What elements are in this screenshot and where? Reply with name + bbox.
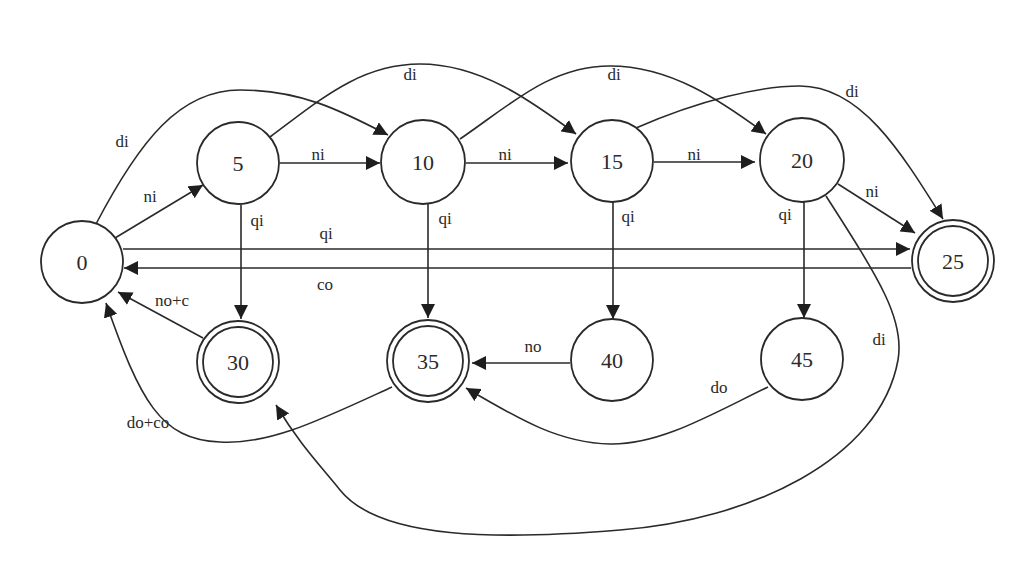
node-label-0: 0 [77, 250, 88, 275]
edge-label-45-35: do [711, 378, 728, 397]
state-diagram: 0 5 10 15 20 25 30 35 40 45 ni di qi [0, 0, 1028, 561]
edge-label-25-0: co [317, 275, 333, 294]
edge-label-5-10: ni [311, 145, 325, 164]
node-label-40: 40 [601, 348, 623, 373]
node-label-10: 10 [412, 150, 434, 175]
edge-label-20-45: qi [778, 205, 792, 224]
node-30-accepting: 30 [197, 321, 279, 403]
node-label-45: 45 [791, 347, 813, 372]
edge-label-10-15: ni [498, 145, 512, 164]
edge-label-40-35: no [525, 337, 542, 356]
node-45: 45 [761, 318, 843, 400]
edge-label-5-15: di [403, 65, 417, 84]
edge-label-0-25: qi [319, 224, 333, 243]
node-25-accepting: 25 [912, 220, 994, 302]
node-20: 20 [760, 118, 844, 202]
edge-label-10-20: di [607, 65, 621, 84]
edge-label-15-25: di [845, 82, 859, 101]
node-35-accepting: 35 [387, 320, 469, 402]
edge-0-5 [115, 185, 203, 238]
node-label-25: 25 [942, 249, 964, 274]
node-label-15: 15 [601, 149, 623, 174]
node-40: 40 [571, 319, 653, 401]
node-10: 10 [381, 120, 465, 204]
edge-label-10-35: qi [438, 209, 452, 228]
node-label-5: 5 [233, 151, 244, 176]
edge-label-15-20: ni [687, 145, 701, 164]
edge-label-20-25: ni [865, 182, 879, 201]
node-0: 0 [41, 221, 123, 303]
node-5: 5 [197, 122, 279, 204]
edge-label-30-0: no+c [155, 291, 190, 310]
edge-label-15-40: qi [621, 207, 635, 226]
edge-label-0-5: ni [143, 187, 157, 206]
edge-label-20-30: di [872, 330, 886, 349]
node-15: 15 [571, 120, 653, 202]
edge-label-0-10: di [115, 132, 129, 151]
edge-label-35-0: do+co [127, 413, 170, 432]
edge-label-5-30: qi [250, 211, 264, 230]
node-label-30: 30 [227, 350, 249, 375]
node-label-20: 20 [791, 148, 813, 173]
node-label-35: 35 [417, 349, 439, 374]
